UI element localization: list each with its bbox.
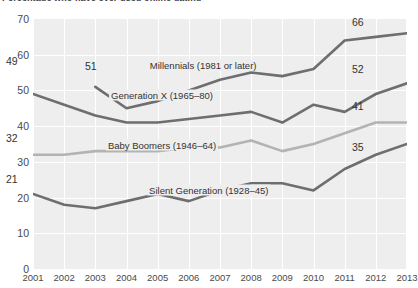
- x-axis-tick-label: 2011: [334, 272, 354, 283]
- value-label: 35: [352, 141, 364, 153]
- series-line: [33, 144, 407, 208]
- x-axis-tick-label: 2010: [303, 272, 324, 283]
- x-axis-tick-label: 2006: [178, 272, 199, 283]
- x-axis-tick-label: 2005: [147, 272, 168, 283]
- x-axis-tick-label: 2004: [116, 272, 137, 283]
- series-label: Millennials (1981 or later): [148, 60, 259, 71]
- y-axis-tick-label: 10: [1, 228, 29, 238]
- series-lines: [33, 19, 407, 269]
- value-label: 49: [6, 55, 18, 67]
- x-axis-tick-label: 2001: [22, 272, 43, 283]
- chart-title: Percentage who have ever used online dat…: [2, 0, 201, 1]
- value-label: 32: [6, 132, 18, 144]
- x-axis-tick-label: 2013: [396, 272, 417, 283]
- y-axis-tick-label: 40: [1, 121, 29, 131]
- value-label: 52: [352, 63, 364, 75]
- x-axis-tick-label: 2003: [85, 272, 106, 283]
- gridline-horizontal: [33, 269, 407, 270]
- value-label: 51: [85, 60, 97, 72]
- y-axis-tick-label: 20: [1, 193, 29, 203]
- series-label: Baby Boomers (1946–64): [106, 140, 218, 151]
- y-axis-tick-label: 70: [1, 14, 29, 24]
- y-axis-tick-label: 30: [1, 157, 29, 167]
- x-axis-tick-label: 2002: [54, 272, 75, 283]
- x-axis-tick-label: 2007: [209, 272, 230, 283]
- x-axis-tick-label: 2009: [272, 272, 293, 283]
- value-label: 41: [352, 100, 364, 112]
- value-label: 21: [6, 173, 18, 185]
- series-svg: [33, 19, 407, 269]
- y-axis-tick-label: 50: [1, 85, 29, 95]
- x-axis-tick-label: 2012: [365, 272, 386, 283]
- x-axis: 2001200220032004200520062007200820092010…: [33, 272, 407, 286]
- series-line: [33, 83, 407, 122]
- plot-area: Millennials (1981 or later)Generation X …: [33, 19, 407, 269]
- x-axis-tick-label: 2008: [241, 272, 262, 283]
- series-label: Silent Generation (1928–45): [147, 185, 270, 196]
- series-line: [33, 123, 407, 155]
- value-label: 66: [352, 16, 364, 28]
- series-label: Generation X (1965–80): [109, 90, 215, 101]
